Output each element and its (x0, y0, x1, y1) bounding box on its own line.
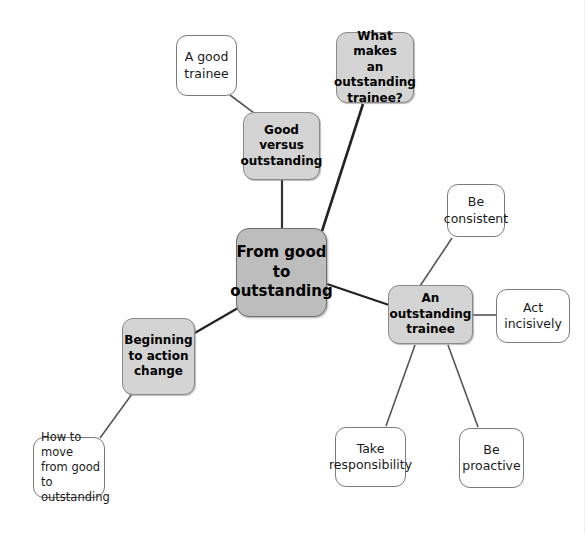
mind-map-canvas: A good trainee What makes an outstanding… (0, 0, 585, 534)
node-good-versus-outstanding[interactable]: Good versus outstanding (243, 112, 320, 180)
edge-question-to-central (322, 104, 363, 231)
node-how-to-move-label: How to move from good to outstanding (41, 430, 110, 505)
node-an-outstanding-trainee[interactable]: An outstanding trainee (388, 285, 473, 344)
edge-outstanding-to-be-consistent (420, 238, 452, 286)
node-how-to-move[interactable]: How to move from good to outstanding (33, 437, 105, 498)
node-be-proactive-label: Be proactive (462, 442, 520, 475)
node-beginning-to-action-change-label: Beginning to action change (124, 333, 192, 380)
node-good-versus-outstanding-label: Good versus outstanding (241, 123, 323, 170)
node-act-incisively-label: Act incisively (497, 300, 569, 333)
node-what-makes-outstanding[interactable]: What makes an outstanding trainee? (336, 32, 414, 103)
node-a-good-trainee-label: A good trainee (184, 49, 228, 82)
node-be-consistent-label: Be consistent (444, 194, 508, 227)
node-central-label: From good to outstanding (230, 243, 332, 302)
node-be-proactive[interactable]: Be proactive (459, 428, 524, 488)
node-what-makes-outstanding-label: What makes an outstanding trainee? (334, 29, 416, 107)
node-beginning-to-action-change[interactable]: Beginning to action change (122, 318, 195, 395)
edge-outstanding-to-be-proactive (448, 345, 478, 427)
edge-outstanding-to-take-responsibility (386, 345, 415, 426)
node-central-from-good-to-outstanding[interactable]: From good to outstanding (236, 228, 327, 317)
edge-central-to-outstanding-trainee (327, 284, 389, 305)
node-act-incisively[interactable]: Act incisively (496, 289, 570, 343)
node-an-outstanding-trainee-label: An outstanding trainee (390, 291, 472, 338)
node-be-consistent[interactable]: Be consistent (447, 184, 505, 237)
edge-central-to-beginning (193, 308, 238, 334)
node-a-good-trainee[interactable]: A good trainee (176, 35, 237, 96)
node-take-responsibility[interactable]: Take responsibility (335, 427, 406, 487)
node-take-responsibility-label: Take responsibility (329, 441, 412, 474)
